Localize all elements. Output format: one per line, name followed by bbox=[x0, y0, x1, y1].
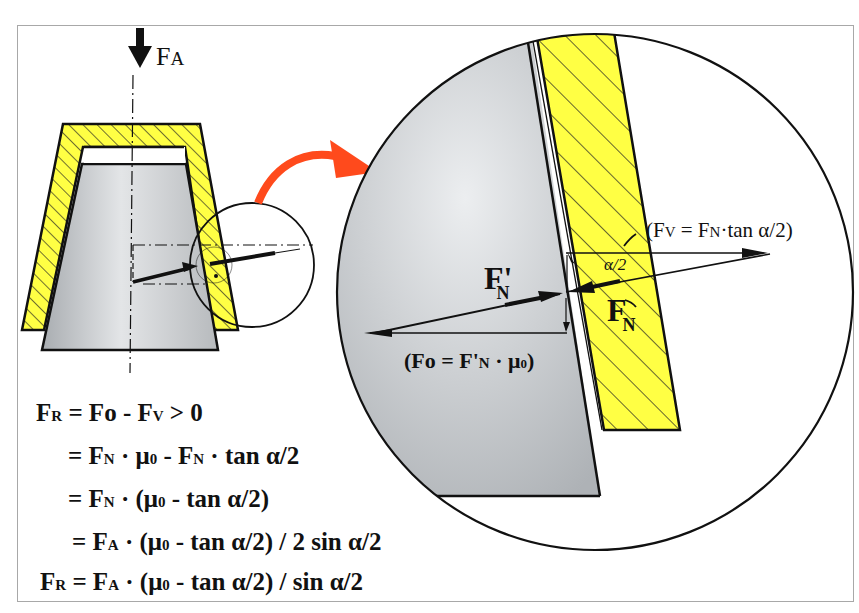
fo-label: (Fo = F'N · μ0) bbox=[404, 350, 534, 372]
small-taper-assembly bbox=[22, 28, 314, 373]
fn-prime-label: F'N bbox=[484, 262, 525, 294]
equation-line-3: = FN · (μ0 - tan α/2) bbox=[68, 486, 269, 511]
axial-force-label: FA bbox=[156, 44, 184, 70]
equation-line-5: FR = FA · (μ0 - tan α/2) / sin α/2 bbox=[40, 569, 363, 594]
axial-force-arrow-icon bbox=[128, 28, 152, 68]
fn-label: FN bbox=[607, 294, 640, 326]
alpha-half-angle-label: α/2 bbox=[604, 256, 626, 273]
equation-line-2: = FN · μ0 - FN · tan α/2 bbox=[68, 443, 299, 468]
magnified-detail bbox=[300, 0, 680, 496]
taper-diagram bbox=[0, 0, 859, 613]
fv-label: (FV = FN·tan α/2) bbox=[646, 220, 793, 241]
equation-line-4: = FA · (μ0 - tan α/2) / 2 sin α/2 bbox=[72, 529, 381, 554]
equation-line-1: FR = Fo - FV > 0 bbox=[36, 400, 203, 425]
